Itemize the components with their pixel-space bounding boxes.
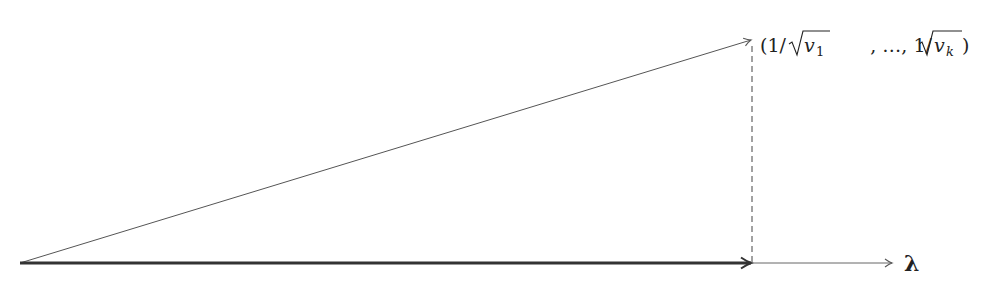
lambda-label: λ <box>904 250 919 276</box>
svg-text:1: 1 <box>816 44 824 59</box>
svg-text:k: k <box>946 44 954 59</box>
svg-text:v: v <box>934 34 945 56</box>
svg-text:v: v <box>804 34 815 56</box>
endpoint-label: (1/ v 1 , …, 1/ v k ) <box>760 31 969 59</box>
diagonal-vector <box>20 40 751 263</box>
svg-text:): ) <box>962 34 969 56</box>
label-open: (1/ <box>760 34 787 56</box>
svg-text:(1/: (1/ <box>760 34 787 56</box>
vector-diagram: (1/ v 1 , …, 1/ v k ) λ <box>0 0 1000 294</box>
